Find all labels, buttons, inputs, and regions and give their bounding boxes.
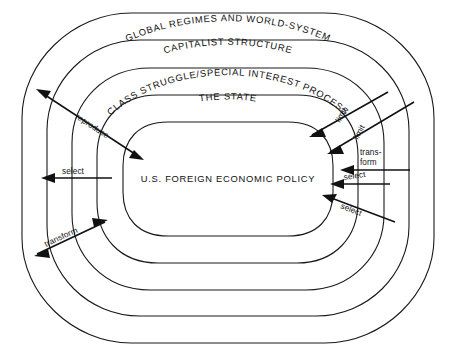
arrow-transform-left: transform: [34, 218, 108, 258]
arrow-label-transform-right-line2: form: [360, 158, 377, 167]
arrow-transform-left-head-lower: [34, 249, 50, 258]
arrow-label-select-right-2: select: [339, 202, 363, 219]
arrow-select-left-head: [41, 173, 55, 183]
arrow-label-transform-right-line1: trans-: [360, 148, 382, 157]
ring-label-the-state: THE STATE: [198, 90, 257, 103]
arrow-transform-right: trans- form: [340, 148, 410, 175]
arrow-select-right-1-head: [330, 179, 344, 189]
arrow-select-left: select: [41, 167, 112, 183]
arrow-label-reproduce: reproduce: [74, 112, 111, 140]
arrow-label-select-right-1: select: [343, 170, 367, 182]
arrow-transform-left-head-upper: [92, 218, 108, 227]
diagram-canvas: GLOBAL REGIMES AND WORLD-SYSTEM CAPITALI…: [0, 0, 456, 356]
center-label-policy: U.S. FOREIGN ECONOMIC POLICY: [141, 173, 315, 184]
ring-label-the-state-text: THE STATE: [198, 90, 257, 103]
arrow-label-select-left: select: [62, 167, 85, 176]
nested-levels-diagram: GLOBAL REGIMES AND WORLD-SYSTEM CAPITALI…: [0, 0, 456, 356]
arrow-select-right-1: select: [330, 170, 390, 189]
ring-label-capitalist-structure-text: CAPITALIST STRUCTURE: [162, 36, 294, 56]
ring-policy-core: U.S. FOREIGN ECONOMIC POLICY: [123, 122, 333, 236]
ring-label-capitalist-structure: CAPITALIST STRUCTURE: [162, 36, 294, 56]
